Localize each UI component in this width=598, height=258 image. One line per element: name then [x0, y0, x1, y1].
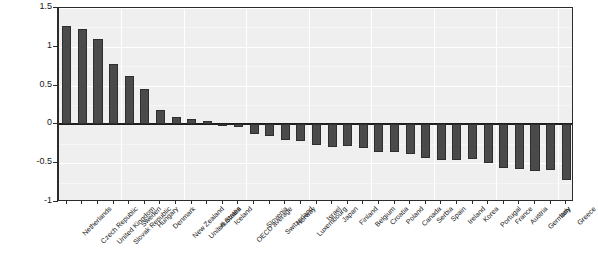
x-axis-tick-label: Norway — [295, 205, 317, 227]
x-axis-tick-label: Greece — [576, 205, 598, 227]
